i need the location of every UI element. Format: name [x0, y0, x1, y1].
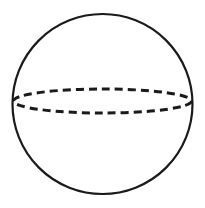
sphere-outline: [13, 14, 193, 194]
sphere-svg: [0, 0, 205, 208]
equator-dashed-ellipse: [14, 89, 192, 113]
sphere-diagram: [0, 0, 205, 208]
